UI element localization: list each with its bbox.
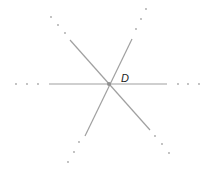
continuation-dot [64, 32, 66, 34]
continuation-dot [73, 151, 75, 153]
point-label-d: D [121, 72, 129, 84]
continuation-dot [140, 18, 142, 20]
continuation-dots [15, 8, 200, 163]
intersection-point [107, 82, 111, 86]
continuation-dot [198, 83, 200, 85]
continuation-dot [135, 28, 137, 30]
continuation-dot [168, 152, 170, 154]
continuation-dot [50, 16, 52, 18]
lines-group [49, 39, 167, 136]
continuation-dot [161, 143, 163, 145]
continuation-dot [37, 83, 39, 85]
continuation-dot [26, 83, 28, 85]
continuation-dot [177, 83, 179, 85]
continuation-dot [145, 8, 147, 10]
continuation-dot [154, 135, 156, 137]
ascending-line [85, 39, 132, 136]
continuation-dot [78, 141, 80, 143]
continuation-dot [67, 161, 69, 163]
continuation-dot [187, 83, 189, 85]
continuation-dot [15, 83, 17, 85]
diagram-canvas: D [0, 0, 212, 171]
continuation-dot [57, 24, 59, 26]
